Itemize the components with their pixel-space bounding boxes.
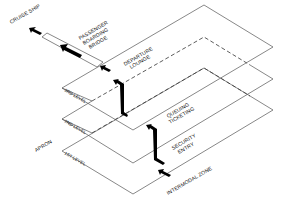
apron-label: APRON [34, 138, 54, 153]
svg-text:1ST LEVEL: 1ST LEVEL [64, 151, 87, 167]
arrow-from-intermodal-icon [158, 169, 171, 177]
svg-text:2ND LEVEL: 2ND LEVEL [64, 119, 88, 136]
cruise-terminal-diagram: CRUISE SHIP PASSENGER BOARDING BRIDGE DE… [0, 0, 285, 204]
stair-arrow-upper-icon [113, 79, 128, 117]
arrow-to-cruise-ship-icon [29, 27, 42, 35]
queuing-ticketing-label: QUEUING TICKETING [166, 101, 196, 125]
departure-lounge-label: DEPARTURE LOUNGE [123, 45, 154, 70]
stair-arrow-lower-icon [146, 124, 165, 165]
intermodal-zone-label: INTERMODAL ZONE [166, 165, 214, 196]
cruise-ship-label: CRUISE SHIP [9, 2, 42, 25]
level-2-label: 2ND LEVEL [64, 119, 88, 136]
level-3-plane [62, 5, 273, 130]
arrow-to-bridge-icon [100, 65, 111, 72]
bridge-label: PASSENGER BOARDING BRIDGE [78, 19, 110, 50]
level-1-label: 1ST LEVEL [64, 151, 87, 167]
svg-text:3RD LEVEL: 3RD LEVEL [64, 88, 88, 105]
level-2-dashed-edges [92, 37, 250, 101]
level-3-label: 3RD LEVEL [64, 88, 88, 105]
security-entry-label: SECURITY ENTRY [171, 132, 198, 155]
